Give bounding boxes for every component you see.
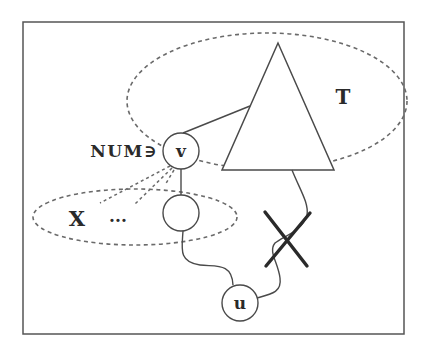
set-region-ellipse <box>33 189 237 245</box>
path-w-u <box>182 231 233 285</box>
num-label: NUM∋ <box>90 141 158 161</box>
node-w <box>163 195 199 231</box>
node-u-label: u <box>234 293 246 313</box>
ellipsis-label: ... <box>109 206 127 226</box>
dotted-edge <box>134 168 172 205</box>
node-v-label: v <box>175 141 187 161</box>
dotted-edge <box>165 170 174 185</box>
tree-triangle <box>222 43 334 170</box>
diagram-canvas: v u T NUM∋ X ... <box>0 0 424 354</box>
cut-cross-icon <box>265 212 310 266</box>
dotted-edge <box>100 166 170 203</box>
diagram-frame <box>23 22 404 334</box>
set-label: X <box>69 206 86 231</box>
tree-label: T <box>336 85 351 109</box>
